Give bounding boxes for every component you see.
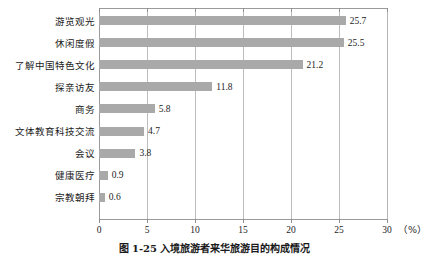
- tick-bottom-10: [195, 219, 196, 223]
- figure-caption: 图 1-25 入境旅游者来华旅游目的构成情况: [0, 243, 429, 254]
- tick-bottom-5: [147, 219, 148, 223]
- category-label: 游览观光: [55, 17, 95, 26]
- tick-bottom-15: [243, 219, 244, 223]
- tick-top-0: [99, 8, 100, 12]
- tick-top-15: [243, 8, 244, 12]
- tick-top-20: [291, 8, 292, 12]
- value-label: 5.8: [159, 105, 171, 114]
- x-tick-label: 5: [145, 225, 150, 235]
- bar: [99, 16, 346, 25]
- value-label: 21.2: [307, 61, 324, 70]
- figure-container: 游览观光休闲度假了解中国特色文化探亲访友商务文体教育科技交流会议健康医疗宗教朝拜…: [0, 0, 429, 254]
- bar: [99, 82, 212, 91]
- tick-top-30: [387, 8, 388, 12]
- value-label: 25.7: [350, 17, 367, 26]
- bar: [99, 171, 108, 180]
- tick-top-10: [195, 8, 196, 12]
- bar: [99, 149, 135, 158]
- category-label: 会议: [75, 149, 95, 158]
- value-label: 0.9: [112, 171, 124, 180]
- tick-bottom-0: [99, 219, 100, 223]
- bar: [99, 193, 105, 202]
- category-label: 健康医疗: [55, 171, 95, 180]
- bar: [99, 127, 144, 136]
- x-tick-label: 25: [334, 225, 344, 235]
- category-label: 了解中国特色文化: [15, 61, 95, 70]
- tick-bottom-20: [291, 219, 292, 223]
- bar: [99, 60, 303, 69]
- tick-top-5: [147, 8, 148, 12]
- category-label: 宗教朝拜: [55, 193, 95, 202]
- x-tick-label: 15: [238, 225, 248, 235]
- x-tick-label: 0: [97, 225, 102, 235]
- tick-bottom-25: [339, 219, 340, 223]
- tick-bottom-30: [387, 219, 388, 223]
- axis-unit-label: （%）: [398, 225, 427, 235]
- x-tick-label: 20: [286, 225, 296, 235]
- category-label: 文体教育科技交流: [15, 127, 95, 136]
- x-tick-label: 10: [190, 225, 200, 235]
- axis-line-right: [387, 8, 388, 220]
- x-tick-label: 30: [382, 225, 392, 235]
- category-label: 商务: [75, 105, 95, 114]
- tick-top-25: [339, 8, 340, 12]
- value-label: 0.6: [109, 193, 121, 202]
- value-label: 4.7: [148, 127, 160, 136]
- category-label: 休闲度假: [55, 39, 95, 48]
- value-label: 3.8: [139, 149, 151, 158]
- value-label: 25.5: [348, 39, 365, 48]
- category-label: 探亲访友: [55, 83, 95, 92]
- bar: [99, 38, 344, 47]
- bar: [99, 104, 155, 113]
- value-label: 11.8: [216, 83, 232, 92]
